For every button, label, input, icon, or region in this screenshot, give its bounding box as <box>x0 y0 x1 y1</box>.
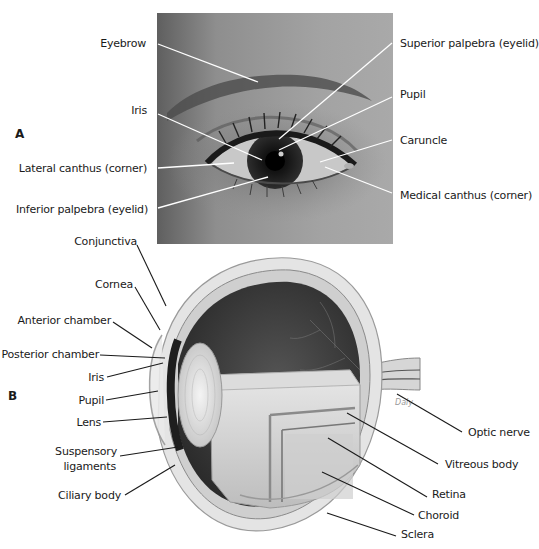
label-anterior-chamber: Anterior chamber <box>18 314 111 327</box>
panel-letter-a: A <box>15 127 24 141</box>
label-vitreous-body: Vitreous body <box>445 458 518 471</box>
label-caruncle: Caruncle <box>400 134 447 147</box>
label-sclera: Sclera <box>401 528 434 541</box>
label-choroid: Choroid <box>418 509 459 522</box>
label-suspensory: Suspensory <box>55 445 117 458</box>
label-pupil-b: Pupil <box>78 394 104 407</box>
label-posterior-chamber: Posterior chamber <box>2 348 99 361</box>
label-ligaments: ligaments <box>63 460 116 473</box>
label-inferior-palpebra: Inferior palpebra (eyelid) <box>16 203 148 216</box>
eye-photograph <box>157 13 393 244</box>
label-ciliary-body: Ciliary body <box>58 489 121 502</box>
label-iris-a: Iris <box>131 104 147 117</box>
eyeball-cross-section: Daly <box>120 240 440 549</box>
label-optic-nerve: Optic nerve <box>468 426 530 439</box>
panel-letter-b: B <box>8 389 17 403</box>
eye-photo-graphic <box>157 13 393 244</box>
svg-text:Daly: Daly <box>395 398 413 407</box>
eyeball-graphic: Daly <box>120 240 440 549</box>
label-pupil-a: Pupil <box>400 88 426 101</box>
label-eyebrow: Eyebrow <box>100 37 146 50</box>
label-retina: Retina <box>432 488 466 501</box>
label-superior-palpebra: Superior palpebra (eyelid) <box>400 37 539 50</box>
label-lateral-canthus: Lateral canthus (corner) <box>19 162 147 175</box>
label-conjunctiva: Conjunctiva <box>74 235 137 248</box>
label-cornea: Cornea <box>95 278 133 291</box>
label-medical-canthus: Medical canthus (corner) <box>400 189 532 202</box>
label-iris-b: Iris <box>88 371 104 384</box>
label-lens: Lens <box>76 416 101 429</box>
